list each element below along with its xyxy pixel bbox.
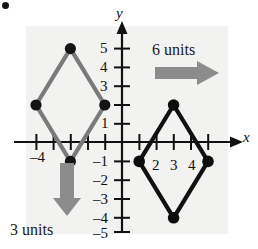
y-tick-label-neg2: –2	[93, 173, 108, 188]
x-axis-label: x	[243, 130, 250, 145]
y-tick-label-neg4: –4	[93, 211, 108, 226]
x-tick-label-neg4: –4	[30, 150, 45, 165]
y-tick-label-neg5: –5	[93, 226, 108, 241]
x-tick-label-2: 2	[152, 158, 160, 173]
horizontal-translation-label: 6 units	[152, 42, 195, 58]
y-tick-label-4: 4	[100, 60, 108, 75]
y-tick-label-neg3: –3	[93, 192, 108, 207]
y-tick-label-5: 5	[100, 41, 108, 56]
coordinate-plane-graphic	[0, 0, 258, 249]
right-arrow-icon	[155, 61, 219, 85]
down-arrow-icon	[53, 163, 81, 216]
y-tick-label-3: 3	[100, 79, 108, 94]
vertical-translation-label: 3 units	[10, 222, 53, 238]
y-tick-label-1: 1	[101, 116, 109, 131]
translation-figure: 5 4 3 1 –1 –2 –3 –4 –5 –4 2 3 4 x y 6 un…	[0, 0, 258, 249]
x-tick-label-4: 4	[188, 158, 196, 173]
y-tick-label-neg1: –1	[93, 154, 108, 169]
y-axis-label: y	[116, 6, 123, 21]
y-axis	[117, 21, 128, 232]
x-tick-label-3: 3	[170, 158, 178, 173]
